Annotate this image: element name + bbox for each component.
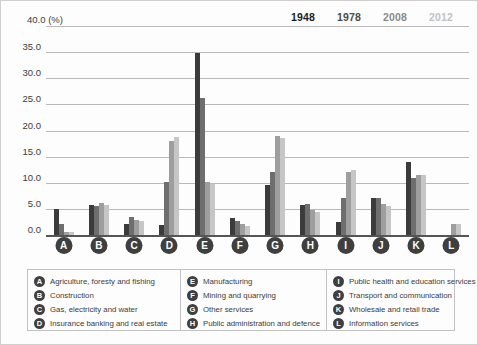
- legend-label-E: Manufacturing: [203, 277, 252, 286]
- bar-group-I: [328, 26, 363, 235]
- y-tick-label-30.0: 30.0: [23, 67, 42, 78]
- series-legend-1948: 1948: [291, 11, 315, 23]
- bar-series-container: [46, 26, 469, 235]
- legend-badge-G: G: [187, 304, 198, 315]
- legend-label-B: Construction: [50, 291, 94, 300]
- bar-L-2012: [456, 224, 461, 235]
- legend-label-G: Other services: [203, 305, 253, 314]
- bar-K-2012: [421, 175, 426, 235]
- bar-J-2012: [386, 206, 391, 235]
- legend-item-L: LInformation services: [333, 317, 476, 330]
- bar-group-B: [81, 26, 116, 235]
- legend-item-I: IPublic health and education services: [333, 275, 476, 288]
- category-badge-H: H: [302, 237, 319, 254]
- legend-column-3: IPublic health and education servicesJTr…: [326, 270, 476, 330]
- bar-group-J: [363, 26, 398, 235]
- bar-group-F: [222, 26, 257, 235]
- y-tick-label-0.0: 0.0: [28, 224, 41, 235]
- bar-C-2012: [139, 221, 144, 235]
- category-legend: AAgriculture, foresty and fishingBConstr…: [27, 269, 455, 331]
- legend-label-L: Information services: [349, 319, 419, 328]
- category-axis: ABCDEFGHIJKL: [46, 237, 469, 259]
- bar-D-2012: [174, 137, 179, 235]
- category-badge-D: D: [161, 237, 178, 254]
- legend-label-I: Public health and education services: [349, 277, 476, 286]
- legend-item-D: DInsurance banking and real estate: [34, 317, 180, 330]
- y-tick-label-20.0: 20.0: [23, 120, 42, 131]
- legend-badge-A: A: [34, 276, 45, 287]
- legend-label-C: Gas, electricity and water: [50, 305, 138, 314]
- legend-column-2: EManufacturingFMining and quarryingGOthe…: [180, 270, 326, 330]
- legend-badge-B: B: [34, 290, 45, 301]
- category-badge-F: F: [231, 237, 248, 254]
- legend-label-A: Agriculture, foresty and fishing: [50, 277, 155, 286]
- bar-B-2012: [104, 205, 109, 235]
- legend-item-J: JTransport and communication: [333, 289, 476, 302]
- legend-label-J: Transport and communication: [349, 291, 452, 300]
- y-tick-label-15.0: 15.0: [23, 146, 42, 157]
- plot-area: 0.05.010.015.020.025.030.035.040.0: [46, 26, 469, 235]
- bar-group-D: [152, 26, 187, 235]
- legend-label-D: Insurance banking and real estate: [50, 319, 167, 328]
- legend-badge-I: I: [333, 276, 344, 287]
- legend-item-F: FMining and quarrying: [187, 289, 326, 302]
- legend-item-H: HPublic administration and defence: [187, 317, 326, 330]
- bar-I-2012: [351, 170, 356, 235]
- legend-badge-H: H: [187, 318, 198, 329]
- legend-item-K: KWholesale and retail trade: [333, 303, 476, 316]
- y-tick-label-10.0: 10.0: [23, 172, 42, 183]
- legend-badge-C: C: [34, 304, 45, 315]
- bar-group-E: [187, 26, 222, 235]
- bar-group-A: [46, 26, 81, 235]
- chart-figure: 40.0 (%) 1948197820082012 0.05.010.015.0…: [0, 0, 478, 345]
- series-legend-1978: 1978: [337, 11, 361, 23]
- category-badge-E: E: [196, 237, 213, 254]
- y-tick-label-25.0: 25.0: [23, 93, 42, 104]
- legend-badge-E: E: [187, 276, 198, 287]
- category-badge-L: L: [443, 237, 460, 254]
- category-badge-G: G: [267, 237, 284, 254]
- bar-group-H: [293, 26, 328, 235]
- bar-G-2012: [280, 138, 285, 235]
- bar-A-2012: [69, 232, 74, 235]
- category-badge-B: B: [90, 237, 107, 254]
- legend-badge-L: L: [333, 318, 344, 329]
- bar-H-2012: [315, 212, 320, 236]
- category-badge-C: C: [126, 237, 143, 254]
- bar-group-K: [399, 26, 434, 235]
- legend-label-F: Mining and quarrying: [203, 291, 276, 300]
- legend-column-1: AAgriculture, foresty and fishingBConstr…: [28, 270, 180, 330]
- series-legend-2008: 2008: [383, 11, 407, 23]
- legend-item-E: EManufacturing: [187, 275, 326, 288]
- legend-item-G: GOther services: [187, 303, 326, 316]
- series-legend-2012: 2012: [429, 11, 453, 23]
- y-tick-label-5.0: 5.0: [28, 198, 41, 209]
- legend-item-B: BConstruction: [34, 289, 180, 302]
- bar-E-2012: [210, 184, 215, 235]
- bar-group-C: [117, 26, 152, 235]
- category-badge-I: I: [337, 237, 354, 254]
- legend-item-A: AAgriculture, foresty and fishing: [34, 275, 180, 288]
- legend-item-C: CGas, electricity and water: [34, 303, 180, 316]
- category-badge-J: J: [372, 237, 389, 254]
- legend-badge-J: J: [333, 290, 344, 301]
- y-axis-unit-label: 40.0 (%): [27, 14, 63, 25]
- legend-badge-F: F: [187, 290, 198, 301]
- legend-label-K: Wholesale and retail trade: [349, 305, 440, 314]
- category-badge-K: K: [408, 237, 425, 254]
- y-tick-label-35.0: 35.0: [23, 41, 42, 52]
- category-badge-A: A: [55, 237, 72, 254]
- legend-badge-K: K: [333, 304, 344, 315]
- bar-group-L: [434, 26, 469, 235]
- bar-F-2012: [245, 226, 250, 235]
- legend-label-H: Public administration and defence: [203, 319, 320, 328]
- bar-group-G: [258, 26, 293, 235]
- legend-badge-D: D: [34, 318, 45, 329]
